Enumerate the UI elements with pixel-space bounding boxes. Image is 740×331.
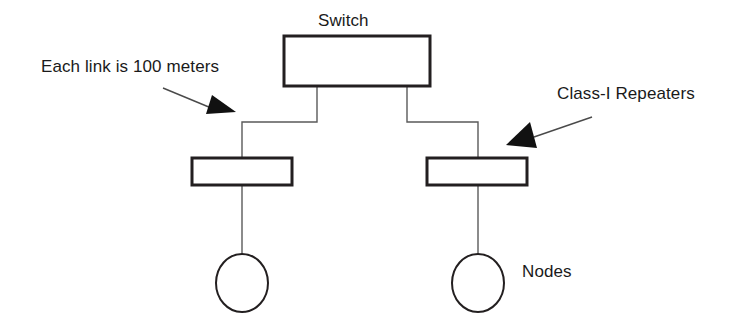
node-circle-left [216,254,268,312]
arrow-head-left-icon [206,95,236,114]
leader-line-left [163,88,216,110]
switch-box [284,36,430,86]
link-switch-to-right-repeater [407,86,478,158]
annotation-arrow-left [163,88,236,114]
repeater-box-right [427,158,527,185]
repeaters-annotation-label: Class-I Repeaters [557,84,695,104]
leader-line-right [534,117,592,137]
switch-label: Switch [318,11,369,31]
network-topology-graphic [0,0,740,331]
annotation-arrow-right [506,117,592,148]
node-circle-right [452,254,504,312]
diagram-canvas: Switch Each link is 100 meters Class-I R… [0,0,740,331]
repeater-box-left [192,158,292,185]
arrow-head-right-icon [506,122,537,148]
nodes-annotation-label: Nodes [522,262,572,282]
link-switch-to-left-repeater [242,86,317,158]
link-length-annotation-label: Each link is 100 meters [41,57,219,77]
